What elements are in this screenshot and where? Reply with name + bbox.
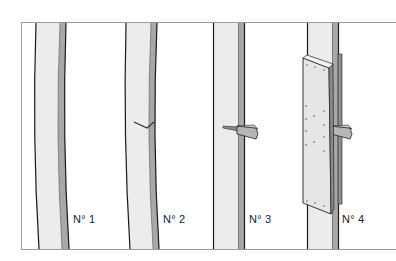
- label-n4: N° 4: [342, 213, 364, 225]
- label-n1: N° 1: [73, 213, 95, 225]
- plank-2: [125, 23, 159, 249]
- splint-plate: [303, 55, 334, 214]
- label-n2: N° 2: [163, 213, 185, 225]
- illustration: [0, 0, 396, 261]
- plank-1: [35, 23, 69, 249]
- label-n3: N° 3: [249, 213, 271, 225]
